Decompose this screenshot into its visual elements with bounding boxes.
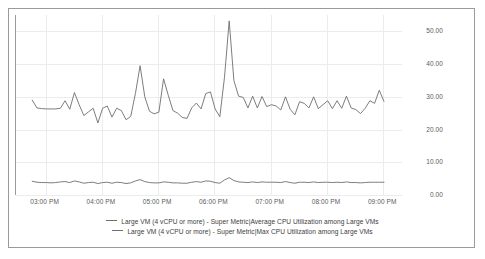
y-axis-tick-label: 20.00 xyxy=(405,126,443,134)
chart-legend: Large VM (4 vCPU or more) - Super Metric… xyxy=(9,217,476,237)
x-axis-tick-label: 09:00 PM xyxy=(359,198,405,205)
y-axis-tick-label: 30.00 xyxy=(405,93,443,101)
plot-wrapper: 0.0010.0020.0030.0040.0050.00 03:00 PM04… xyxy=(15,15,443,210)
legend-line-swatch-icon xyxy=(106,220,117,221)
y-axis-tick-label: 50.00 xyxy=(405,27,443,35)
legend-entry-label: Large VM (4 vCPU or more) - Super Metric… xyxy=(127,228,372,235)
x-axis-tick-label: 08:00 PM xyxy=(303,198,349,205)
gridline-y-0 xyxy=(16,195,402,196)
x-axis-tick-label: 07:00 PM xyxy=(247,198,293,205)
x-axis-tick-label: 06:00 PM xyxy=(190,198,236,205)
x-axis-tick-label: 05:00 PM xyxy=(134,198,180,205)
chart-widget: 0.0010.0020.0030.0040.0050.00 03:00 PM04… xyxy=(8,8,475,248)
series-lines xyxy=(16,15,402,195)
y-axis-tick-label: 40.00 xyxy=(405,60,443,68)
legend-entry-label: Large VM (4 vCPU or more) - Super Metric… xyxy=(121,218,378,225)
y-axis-tick-label: 10.00 xyxy=(405,158,443,166)
series-line-1 xyxy=(32,178,384,184)
legend-entry[interactable]: Large VM (4 vCPU or more) - Super Metric… xyxy=(9,227,476,237)
x-axis-tick-label: 04:00 PM xyxy=(78,198,124,205)
x-axis-tick-label: 03:00 PM xyxy=(22,198,68,205)
series-line-0 xyxy=(32,21,384,123)
plot-area xyxy=(15,15,401,195)
legend-entry[interactable]: Large VM (4 vCPU or more) - Super Metric… xyxy=(9,217,476,227)
legend-line-swatch-icon xyxy=(112,230,123,231)
y-axis-tick-label: 0.00 xyxy=(405,191,443,199)
